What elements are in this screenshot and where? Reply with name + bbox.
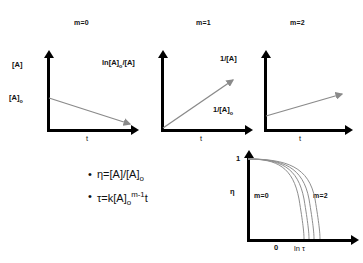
equation-list: • η=[A]/[A]o • τ=k[A]om-1t: [88, 168, 218, 214]
inset-decay-curves: [247, 157, 357, 252]
panel-m2-title: m=2: [290, 19, 305, 26]
conversion-plot: 1 η 0 ln τ m=0 m=2: [218, 148, 358, 263]
inset-y-label: η: [230, 187, 235, 196]
equation-eta: η=[A]/[A]o: [97, 168, 144, 183]
panel-m1-x-label: t: [200, 134, 202, 143]
bullet-dot-icon: •: [88, 168, 97, 181]
panel-m0-y-origin-label: [A]o: [9, 93, 23, 104]
panel-m2: m=2 1/[A] 1/[A]o t: [205, 10, 358, 140]
list-item: • τ=k[A]om-1t: [88, 190, 218, 207]
equation-tau: τ=k[A]om-1t: [97, 190, 148, 207]
panel-m0-x-label: t: [86, 134, 88, 143]
panel-m2-x-label: t: [299, 134, 301, 143]
list-item: • η=[A]/[A]o: [88, 168, 218, 183]
panel-m2-trend-line: [264, 82, 363, 142]
panel-m2-y-label: 1/[A]: [220, 54, 237, 63]
panel-m1-y-label: ln[A]o/[A]: [102, 58, 135, 69]
panel-m2-y-origin-label: 1/[A]o: [213, 105, 233, 116]
panel-m0-title: m=0: [74, 19, 89, 26]
panel-m0-y-label: [A]: [12, 60, 22, 69]
inset-y-tick-top: 1: [236, 154, 240, 163]
bullet-dot-icon: •: [88, 190, 97, 203]
